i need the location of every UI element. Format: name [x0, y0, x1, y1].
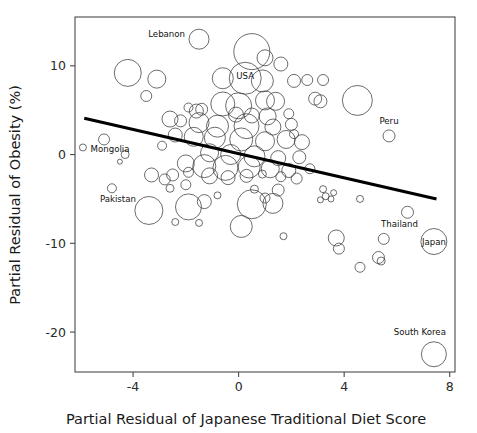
data-point-bubble	[189, 29, 209, 49]
data-point-bubble	[196, 219, 203, 226]
data-point-bubble	[114, 59, 141, 86]
data-point-bubble	[378, 233, 389, 244]
data-point-bubble	[234, 34, 270, 70]
x-tick-label: 8	[446, 379, 454, 394]
regression-line-segment	[84, 118, 436, 199]
point-annotation-label: Japan	[421, 237, 446, 247]
data-point-bubble	[141, 90, 152, 101]
data-point-bubble	[230, 215, 252, 237]
data-point-bubble	[383, 130, 395, 142]
data-point-bubble	[274, 57, 288, 71]
data-point-bubble	[250, 185, 258, 193]
data-point-bubble	[183, 167, 193, 177]
data-point-bubble	[166, 184, 174, 192]
data-point-bubble	[79, 144, 86, 151]
x-tick-label: -4	[127, 379, 140, 394]
data-point-bubble	[234, 114, 259, 139]
y-tick-label: 0	[58, 147, 66, 162]
data-point-bubble	[265, 119, 281, 135]
data-point-bubble	[328, 196, 334, 202]
data-point-bubble	[293, 151, 306, 164]
data-point-bubble	[355, 262, 365, 272]
data-point-bubble	[276, 172, 286, 182]
data-point-bubble	[272, 184, 284, 196]
data-point-bubble	[214, 192, 221, 199]
data-point-bubble	[421, 342, 446, 367]
data-point-bubble	[202, 168, 218, 184]
data-point-bubble	[158, 141, 167, 150]
data-point-bubble	[318, 75, 329, 86]
data-point-bubble	[197, 195, 211, 209]
data-point-bubble	[193, 155, 216, 178]
y-tick-label: 10	[50, 58, 66, 73]
data-point-bubble	[314, 95, 327, 108]
x-axis-title: Partial Residual of Japanese Traditional…	[66, 411, 426, 427]
data-point-bubble	[402, 206, 414, 218]
data-point-bubble	[320, 186, 327, 193]
data-point-bubble	[285, 118, 297, 130]
data-point-bubble	[99, 134, 110, 145]
scatter-plot-figure: -4048100-10-20 LebanonUSAPeruMongoliaPak…	[0, 0, 477, 433]
point-annotation-label: Thailand	[380, 219, 418, 229]
point-annotation-label: Lebanon	[148, 29, 185, 39]
point-annotations: LebanonUSAPeruMongoliaPakistanThailandJa…	[91, 29, 446, 337]
data-point-bubble	[259, 108, 276, 125]
data-point-bubble	[240, 169, 253, 182]
x-tick-label: 4	[340, 379, 348, 394]
data-point-bubble	[189, 113, 209, 133]
data-point-bubble	[212, 68, 233, 89]
data-point-bubble	[145, 168, 159, 182]
data-point-bubble	[196, 103, 208, 115]
point-annotation-label: South Korea	[394, 327, 446, 337]
data-point-bubble	[244, 108, 259, 123]
data-point-bubble	[290, 130, 299, 139]
plot-canvas: -4048100-10-20 LebanonUSAPeruMongoliaPak…	[0, 0, 477, 433]
x-tick-label: 0	[235, 379, 243, 394]
data-point-bubble	[175, 115, 187, 127]
data-point-bubble	[226, 93, 252, 119]
data-point-bubble	[288, 74, 301, 87]
y-tick-label: -20	[46, 325, 66, 340]
point-annotation-label: Pakistan	[100, 194, 136, 204]
data-point-bubble	[357, 195, 364, 202]
data-point-bubble	[317, 197, 323, 203]
data-point-bubble	[277, 130, 295, 148]
data-point-bubble	[211, 92, 235, 116]
data-point-bubble	[181, 180, 191, 190]
data-point-bubble	[148, 70, 166, 88]
data-point-bubble	[175, 194, 201, 220]
regression-line	[84, 118, 436, 199]
data-point-bubble	[294, 135, 309, 150]
point-annotation-label: Mongolia	[91, 144, 130, 154]
data-point-bubble	[117, 159, 122, 164]
point-annotation-label: USA	[236, 71, 254, 81]
data-point-bubble	[256, 91, 275, 110]
data-point-bubble	[302, 75, 313, 86]
data-point-bubble	[284, 109, 294, 119]
data-point-bubble	[280, 233, 287, 240]
data-point-bubble	[256, 132, 275, 151]
data-point-bubble	[251, 70, 273, 92]
y-axis-title: Partial Residual of Obesity (%)	[7, 85, 23, 305]
point-annotation-label: Peru	[379, 116, 398, 126]
data-point-bubble	[258, 170, 266, 178]
data-point-bubble	[107, 184, 116, 193]
data-point-bubble	[291, 173, 302, 184]
data-point-bubble	[342, 85, 372, 115]
data-point-bubble	[177, 155, 194, 172]
y-tick-label: -10	[46, 236, 66, 251]
data-point-bubble	[207, 115, 229, 137]
data-point-bubble	[213, 155, 238, 180]
data-point-bubble	[172, 219, 179, 226]
data-point-bubble	[135, 196, 163, 224]
data-point-bubble	[309, 92, 322, 105]
data-point-bubble	[184, 103, 193, 112]
data-point-bubble	[333, 243, 344, 254]
data-point-bubble	[377, 257, 385, 265]
data-point-bubble	[267, 92, 285, 110]
data-point-bubble	[331, 190, 337, 196]
